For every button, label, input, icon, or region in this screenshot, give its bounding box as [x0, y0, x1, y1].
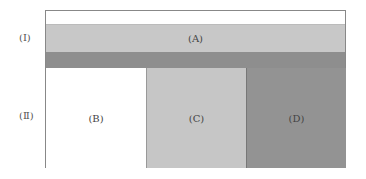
region-b: (B) — [46, 68, 146, 168]
region-d-label: (D) — [289, 113, 305, 124]
dark-band — [46, 52, 345, 68]
region-c: (C) — [146, 68, 246, 168]
region-d: (D) — [246, 68, 346, 168]
region-c-label: (C) — [189, 113, 204, 124]
row-label-2: (Ⅱ) — [19, 110, 34, 121]
row-label-1: (Ⅰ) — [19, 32, 31, 43]
region-b-label: (B) — [88, 113, 103, 124]
region-a-label: (A) — [188, 33, 203, 44]
region-a: (A) — [46, 25, 345, 52]
diagram-frame: (A) (B) (C) (D) — [45, 10, 346, 168]
top-white-band — [46, 11, 345, 25]
